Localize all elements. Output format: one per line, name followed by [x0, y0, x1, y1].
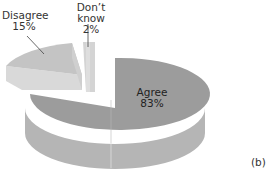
label-dont-know-pct: 2% [62, 24, 120, 35]
slice-dont-know [83, 42, 95, 92]
label-dont-know-name: Don’t know [62, 2, 120, 24]
label-agree-pct: 83% [130, 98, 174, 109]
label-dont-know: Don’t know 2% [62, 2, 120, 35]
slice-disagree [6, 43, 82, 90]
label-disagree-pct: 15% [2, 21, 46, 32]
panel-label: (b) [251, 156, 266, 168]
label-disagree: Disagree 15% [2, 10, 46, 32]
label-agree: Agree 83% [130, 87, 174, 109]
